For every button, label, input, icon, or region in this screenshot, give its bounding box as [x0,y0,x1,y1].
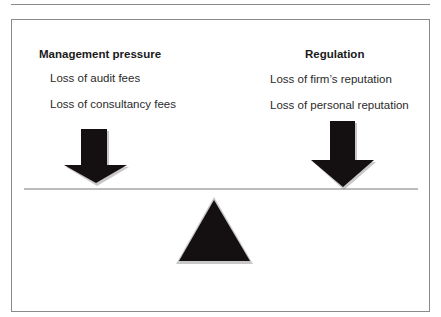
down-arrow-icon-left [64,129,129,186]
balance-graphic [0,0,441,317]
down-arrow-icon-right [311,121,376,190]
fulcrum-triangle-icon [176,197,253,264]
